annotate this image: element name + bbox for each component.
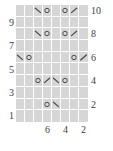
yarn-over-icon [61, 28, 69, 39]
chart-cell-r1-c1 [79, 110, 88, 122]
chart-cell-r4-c2 [70, 75, 79, 87]
yarn-over-icon [43, 99, 51, 110]
chart-cell-r10-c2 [70, 5, 79, 17]
right-decrease-icon [70, 28, 78, 39]
chart-cell-r2-c7 [25, 99, 34, 111]
chart-cell-r2-c3 [61, 99, 70, 111]
chart-cell-r9-c7 [25, 17, 34, 29]
chart-cell-r5-c8 [16, 63, 25, 75]
chart-cell-r9-c5 [43, 17, 52, 29]
chart-grid [16, 5, 88, 122]
chart-cell-r1-c6 [34, 110, 43, 122]
knitting-chart-figure: 97531 108642 642 [0, 0, 113, 151]
chart-cell-r3-c2 [70, 87, 79, 99]
right-decrease-icon [70, 5, 78, 16]
chart-cell-r4-c1 [79, 75, 88, 87]
chart-cell-r1-c2 [70, 110, 79, 122]
chart-cell-r5-c6 [34, 63, 43, 75]
chart-cell-r9-c2 [70, 17, 79, 29]
left-decrease-icon [34, 5, 42, 16]
row-label-right-6: 6 [91, 52, 96, 64]
yarn-over-icon [43, 5, 51, 16]
chart-cell-r9-c1 [79, 17, 88, 29]
right-decrease-icon [43, 75, 51, 86]
row-label-left-9: 9 [9, 17, 14, 29]
chart-cell-r3-c6 [34, 87, 43, 99]
chart-cell-r4-c4 [52, 75, 61, 87]
chart-cell-r1-c4 [52, 110, 61, 122]
chart-cell-r10-c7 [25, 5, 34, 17]
row-label-right-2: 2 [91, 99, 96, 111]
chart-cell-r9-c6 [34, 17, 43, 29]
yarn-over-icon [61, 75, 69, 86]
chart-cell-r7-c5 [43, 40, 52, 52]
column-label-6: 6 [43, 124, 52, 136]
chart-cell-r7-c2 [70, 40, 79, 52]
chart-cell-r9-c8 [16, 17, 25, 29]
chart-cell-r5-c2 [70, 63, 79, 75]
row-label-left-3: 3 [9, 87, 14, 99]
chart-cell-r2-c8 [16, 99, 25, 111]
chart-cell-r3-c5 [43, 87, 52, 99]
chart-cell-r8-c7 [25, 28, 34, 40]
chart-cell-r8-c3 [61, 28, 70, 40]
row-label-right-10: 10 [91, 5, 101, 17]
chart-cell-r1-c7 [25, 110, 34, 122]
chart-cell-r2-c6 [34, 99, 43, 111]
chart-cell-r4-c5 [43, 75, 52, 87]
row-label-right-8: 8 [91, 28, 96, 40]
column-label-2: 2 [79, 124, 88, 136]
chart-cell-r8-c6 [34, 28, 43, 40]
row-label-left-1: 1 [9, 110, 14, 122]
chart-cell-r6-c4 [52, 52, 61, 64]
chart-cell-r3-c8 [16, 87, 25, 99]
chart-cell-r8-c5 [43, 28, 52, 40]
chart-cell-r3-c4 [52, 87, 61, 99]
chart-cell-r2-c2 [70, 99, 79, 111]
chart-cell-r10-c3 [61, 5, 70, 17]
chart-cell-r10-c4 [52, 5, 61, 17]
chart-cell-r4-c7 [25, 75, 34, 87]
chart-cell-r10-c5 [43, 5, 52, 17]
chart-cell-r8-c4 [52, 28, 61, 40]
chart-cell-r6-c1 [79, 52, 88, 64]
chart-cell-r7-c1 [79, 40, 88, 52]
column-labels-bottom: 642 [16, 124, 88, 140]
row-label-right-4: 4 [91, 75, 96, 87]
yarn-over-icon [34, 75, 42, 86]
chart-cell-r6-c2 [70, 52, 79, 64]
chart-cell-r10-c8 [16, 5, 25, 17]
chart-cell-r1-c8 [16, 110, 25, 122]
yarn-over-icon [43, 28, 51, 39]
chart-cell-r9-c4 [52, 17, 61, 29]
chart-cell-r5-c7 [25, 63, 34, 75]
chart-cell-r3-c7 [25, 87, 34, 99]
chart-cell-r7-c4 [52, 40, 61, 52]
chart-cell-r7-c7 [25, 40, 34, 52]
chart-cell-r1-c3 [61, 110, 70, 122]
left-decrease-icon [52, 75, 60, 86]
right-decrease-icon [79, 52, 88, 63]
chart-cell-r7-c6 [34, 40, 43, 52]
chart-cell-r5-c1 [79, 63, 88, 75]
chart-cell-r2-c1 [79, 99, 88, 111]
left-decrease-icon [16, 52, 24, 63]
chart-cell-r6-c5 [43, 52, 52, 64]
chart-cell-r2-c4 [52, 99, 61, 111]
chart-cell-r7-c3 [61, 40, 70, 52]
chart-cell-r5-c4 [52, 63, 61, 75]
chart-cell-r6-c6 [34, 52, 43, 64]
chart-cell-r1-c5 [43, 110, 52, 122]
chart-cell-r8-c1 [79, 28, 88, 40]
chart-cell-r4-c6 [34, 75, 43, 87]
chart-cell-r6-c7 [25, 52, 34, 64]
chart-cell-r4-c3 [61, 75, 70, 87]
chart-cell-r10-c1 [79, 5, 88, 17]
chart-cell-r6-c3 [61, 52, 70, 64]
chart-cell-r5-c5 [43, 63, 52, 75]
chart-cell-r3-c1 [79, 87, 88, 99]
row-label-left-7: 7 [9, 40, 14, 52]
chart-cell-r6-c8 [16, 52, 25, 64]
left-decrease-icon [52, 99, 60, 110]
chart-cell-r3-c3 [61, 87, 70, 99]
